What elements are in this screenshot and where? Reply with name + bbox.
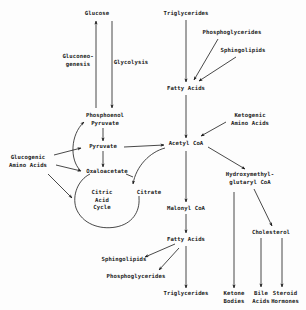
node-label: Acids bbox=[252, 298, 269, 306]
arrow-oxaloacetate-pep bbox=[73, 122, 84, 170]
node-label: Citrate bbox=[137, 189, 161, 197]
node-sphingolipids-top: Sphingolipids bbox=[220, 47, 265, 55]
arrow-fa-pg bbox=[159, 248, 179, 270]
node-ketone-bodies: Ketone Bodies bbox=[224, 290, 245, 305]
node-label: Steroid bbox=[271, 290, 299, 298]
edge-label-line: Glycolysis bbox=[114, 59, 149, 67]
node-acetyl-coa: Acetyl CoA bbox=[169, 140, 204, 148]
node-label: Malonyl CoA bbox=[167, 205, 205, 213]
node-label: Hydroxymethyl- bbox=[226, 171, 275, 179]
node-citric-acid-cycle: Citric Acid Cycle bbox=[92, 189, 113, 212]
edge-label-line: genesis bbox=[62, 61, 93, 69]
node-label: Hormones bbox=[271, 298, 299, 306]
node-label: Fatty Acids bbox=[167, 236, 205, 244]
arrow-pyruvate-acetylcoa bbox=[124, 145, 164, 147]
node-glucose: Glucose bbox=[85, 10, 109, 18]
node-label: Triglycerides bbox=[163, 10, 208, 18]
node-label: Pyruvate bbox=[86, 120, 124, 128]
arrow-hmg-cholesterol bbox=[254, 189, 272, 226]
edge-label-glycolysis: Glycolysis bbox=[114, 59, 149, 67]
node-label: Phosphoglycerides bbox=[107, 273, 166, 281]
node-pyruvate: Pyruvate bbox=[89, 143, 117, 151]
node-label: Phosphoenol bbox=[86, 112, 124, 120]
node-triglycerides-top: Triglycerides bbox=[163, 10, 208, 18]
node-hmg-coa: Hydroxymethyl- glutaryl CoA bbox=[226, 171, 275, 186]
metabolic-pathway-diagram: Glucose Gluconeo- genesis Glycolysis Pho… bbox=[0, 0, 306, 310]
node-label: Citric bbox=[92, 189, 113, 197]
node-steroid-hormones: Steroid Hormones bbox=[271, 290, 299, 305]
node-label: glutaryl CoA bbox=[226, 179, 275, 187]
node-label: Sphingolipids bbox=[220, 47, 265, 55]
arrow-sl-fa bbox=[199, 57, 236, 81]
node-label: Oxaloacetate bbox=[86, 168, 128, 176]
node-label: Amino Acids bbox=[231, 120, 269, 128]
node-glucogenic-amino-acids: Glucogenic Amino Acids bbox=[9, 154, 47, 169]
node-cholesterol: Cholesterol bbox=[252, 229, 290, 237]
arrow-acetylcoa-citrate bbox=[133, 148, 165, 184]
node-label: Amino Acids bbox=[9, 162, 47, 170]
edge-label-line: Gluconeo- bbox=[62, 53, 93, 61]
node-fatty-acids-bottom: Fatty Acids bbox=[167, 236, 205, 244]
node-label: Cycle bbox=[92, 204, 113, 212]
node-triglycerides-bottom: Triglycerides bbox=[163, 290, 208, 298]
node-label: Ketogenic bbox=[231, 112, 269, 120]
node-label: Fatty Acids bbox=[167, 85, 205, 93]
node-label: Bodies bbox=[224, 298, 245, 306]
node-label: Sphingolipids bbox=[101, 256, 146, 264]
arrow-kaa-acetylcoa bbox=[201, 122, 226, 136]
node-label: Triglycerides bbox=[163, 290, 208, 298]
edge-label-gluconeogenesis: Gluconeo- genesis bbox=[62, 53, 93, 68]
node-label: Acetyl CoA bbox=[169, 140, 204, 148]
node-label: Glucogenic bbox=[9, 154, 47, 162]
node-label: Acid bbox=[92, 197, 113, 205]
node-malonyl-coa: Malonyl CoA bbox=[167, 205, 205, 213]
node-fatty-acids-top: Fatty Acids bbox=[167, 85, 205, 93]
arrow-gaa-cycle bbox=[48, 174, 72, 198]
node-label: Ketone bbox=[224, 290, 245, 298]
arrow-pg-fa bbox=[194, 39, 218, 80]
arrow-acetylcoa-hmg bbox=[208, 147, 245, 169]
node-sphingolipids-bottom: Sphingolipids bbox=[101, 256, 146, 264]
node-label: Pyruvate bbox=[89, 143, 117, 151]
node-phosphoenol-pyruvate: Phosphoenol Pyruvate bbox=[86, 112, 124, 127]
arrow-gaa-pyruvate bbox=[54, 148, 81, 155]
node-oxaloacetate: Oxaloacetate bbox=[86, 168, 128, 176]
node-label: Phosphoglycerides bbox=[203, 29, 262, 37]
node-label: Cholesterol bbox=[252, 229, 290, 237]
node-bile-acids: Bile Acids bbox=[252, 290, 269, 305]
node-label: Glucose bbox=[85, 10, 109, 18]
node-citrate: Citrate bbox=[137, 189, 161, 197]
node-phosphoglycerides-top: Phosphoglycerides bbox=[203, 29, 262, 37]
node-label: Bile bbox=[252, 290, 269, 298]
arrow-fa-sl bbox=[145, 244, 175, 257]
node-ketogenic-amino-acids: Ketogenic Amino Acids bbox=[231, 112, 269, 127]
node-phosphoglycerides-bottom: Phosphoglycerides bbox=[107, 273, 166, 281]
